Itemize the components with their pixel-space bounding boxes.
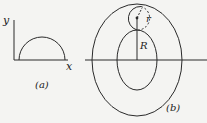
small-radius-label: r: [146, 13, 152, 24]
large-radius-label: R: [139, 40, 148, 51]
radius-r-line: [137, 8, 142, 18]
x-axis-label: x: [66, 60, 73, 73]
figure-a: [14, 20, 68, 60]
y-axis-label: y: [2, 14, 10, 27]
caption-a: (a): [35, 79, 49, 90]
tube-circle-solid: [128, 6, 141, 30]
torus-diagram: y x (a) r R (b): [0, 0, 207, 123]
center-dot: [136, 17, 139, 20]
semicircle: [19, 37, 65, 60]
caption-b: (b): [166, 102, 180, 113]
